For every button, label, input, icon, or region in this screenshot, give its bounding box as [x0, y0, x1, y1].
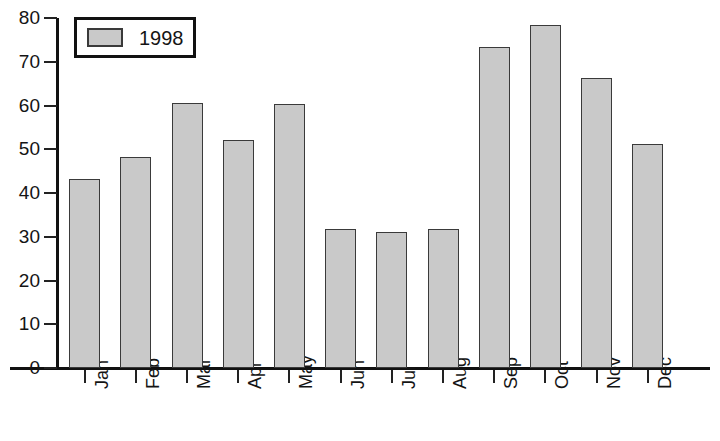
y-tick-label-50: 50 — [0, 139, 40, 158]
y-tick-label-10: 10 — [0, 314, 40, 333]
bar-aug — [428, 229, 459, 368]
x-tick-nov — [596, 370, 598, 383]
y-tick-label-70: 70 — [0, 52, 40, 71]
bar-sep — [479, 47, 510, 368]
x-tick-feb — [135, 370, 137, 383]
x-tick-dec — [647, 370, 649, 383]
legend-label-1998: 1998 — [139, 28, 184, 48]
x-tick-label-jul: Jul — [400, 366, 418, 389]
y-tick-80 — [44, 17, 57, 19]
x-tick-oct — [544, 370, 546, 383]
bar-oct — [530, 25, 561, 368]
y-tick-20 — [44, 280, 57, 282]
y-tick-label-80: 80 — [0, 8, 40, 27]
x-tick-may — [288, 370, 290, 383]
bar-jan — [69, 179, 100, 368]
x-tick-jan — [84, 370, 86, 383]
y-tick-50 — [44, 148, 57, 150]
bar-jul — [376, 232, 407, 368]
bar-feb — [120, 157, 151, 368]
y-tick-60 — [44, 105, 57, 107]
y-tick-label-30: 30 — [0, 227, 40, 246]
x-tick-sep — [493, 370, 495, 383]
bar-dec — [632, 144, 663, 368]
bar-jun — [325, 229, 356, 368]
y-tick-label-0: 0 — [0, 358, 40, 377]
legend: 1998 — [74, 17, 196, 58]
bar-nov — [581, 78, 612, 369]
y-tick-10 — [44, 323, 57, 325]
y-tick-30 — [44, 236, 57, 238]
x-tick-mar — [186, 370, 188, 383]
y-tick-label-40: 40 — [0, 183, 40, 202]
legend-swatch-1998 — [87, 28, 123, 47]
y-tick-70 — [44, 61, 57, 63]
y-tick-0 — [44, 367, 57, 369]
bar-mar — [172, 103, 203, 368]
bar-chart: 01020304050607080 JanFebMarAprMayJunJulA… — [0, 0, 720, 441]
x-tick-apr — [237, 370, 239, 383]
y-tick-label-20: 20 — [0, 271, 40, 290]
x-tick-jul — [391, 370, 393, 383]
y-tick-label-60: 60 — [0, 96, 40, 115]
x-tick-jun — [340, 370, 342, 383]
y-tick-40 — [44, 192, 57, 194]
x-tick-aug — [442, 370, 444, 383]
bar-may — [274, 104, 305, 368]
bar-apr — [223, 140, 254, 368]
